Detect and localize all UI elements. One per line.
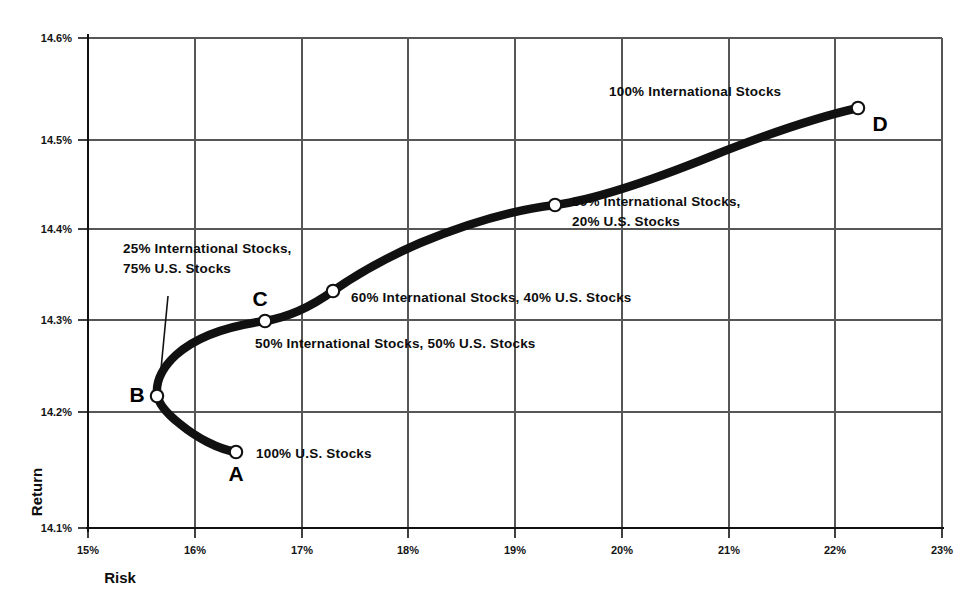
y-tick-label-1: 14.5% [41,134,72,146]
point-letter-b: B [129,383,144,406]
point-letter-d: D [872,112,887,135]
x-tick-label-5: 20% [611,544,633,556]
x-tick-label-0: 15% [77,544,99,556]
point-letter-a: A [228,462,243,485]
x-tick-label-4: 19% [504,544,526,556]
x-axis-title: Risk [104,569,136,586]
y-tick-label-4: 14.2% [41,406,72,418]
y-tick-label-5: 14.1% [41,522,72,534]
annotation-25-international-line2: 75% U.S. Stocks [123,261,231,276]
efficient-frontier-chart: 14.6% 14.5% 14.4% 14.3% 14.2% 14.1% 15% … [0,0,980,597]
annotation-60-international: 60% International Stocks, 40% U.S. Stock… [351,290,632,305]
x-tick-label-7: 22% [824,544,846,556]
y-tick-label-0: 14.6% [41,32,72,44]
annotation-25-international-line1: 25% International Stocks, [123,241,292,256]
annotation-100-international: 100% International Stocks [609,84,781,99]
annotation-80-international-line2: 20% U.S. Stocks [572,214,680,229]
point-letter-c: C [252,287,267,310]
y-tick-label-3: 14.3% [41,314,72,326]
data-point-80[interactable] [549,199,561,211]
x-tick-label-6: 21% [718,544,740,556]
x-tick-label-3: 18% [397,544,419,556]
x-tick-label-1: 16% [184,544,206,556]
data-point-60[interactable] [327,285,339,297]
data-point-d[interactable] [852,102,864,114]
annotation-80-international-line1: 80% International Stocks, [572,194,741,209]
data-point-c[interactable] [259,315,271,327]
chart-canvas: 14.6% 14.5% 14.4% 14.3% 14.2% 14.1% 15% … [0,0,980,597]
data-point-b[interactable] [151,390,163,402]
x-tick-label-2: 17% [291,544,313,556]
annotation-50-international: 50% International Stocks, 50% U.S. Stock… [255,336,536,351]
y-axis-title: Return [28,468,45,516]
x-tick-label-8: 23% [931,544,953,556]
y-tick-label-2: 14.4% [41,223,72,235]
annotation-100-us: 100% U.S. Stocks [256,446,372,461]
data-point-a[interactable] [230,446,242,458]
